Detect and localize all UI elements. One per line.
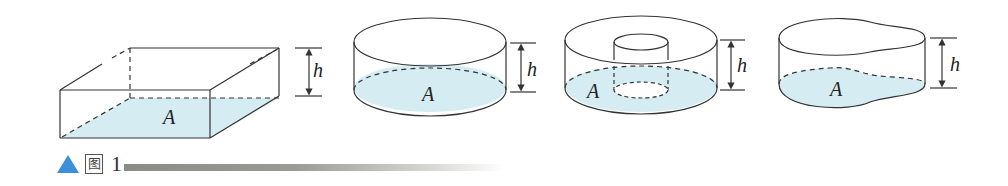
base-label: A	[420, 83, 435, 105]
height-label: h	[313, 59, 323, 81]
height-label: h	[737, 54, 747, 76]
base-label: A	[585, 80, 600, 102]
triangle-marker-icon	[57, 155, 79, 173]
caption-rule	[124, 164, 504, 171]
cylinder-panel	[354, 18, 536, 116]
base-label: A	[161, 106, 176, 128]
figure-glyph: 图	[85, 154, 103, 174]
figure-number: 1	[111, 151, 122, 177]
prism-panel	[60, 48, 322, 138]
base-label: A	[828, 78, 843, 100]
height-label: h	[950, 53, 960, 75]
figure-caption: 图 1	[57, 152, 504, 176]
irregular-cylinder-panel	[779, 19, 957, 108]
height-label: h	[527, 58, 537, 80]
